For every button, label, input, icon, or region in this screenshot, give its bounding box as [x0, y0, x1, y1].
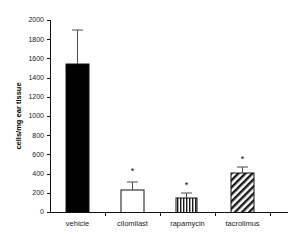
y-label-1000: 1000 [28, 112, 44, 119]
significance-star-tacrolimus: * [241, 154, 245, 164]
x-label-tacrolimus: tacrolimus [225, 219, 259, 228]
x-label-cilomilast: cilomilast [117, 219, 149, 228]
significance-star-rapamycin: * [185, 180, 189, 190]
bar-cilomilast [121, 190, 144, 213]
y-label-600: 600 [32, 151, 44, 158]
y-label-1800: 1800 [28, 36, 44, 43]
y-label-1200: 1200 [28, 93, 44, 100]
bar-vehicle [66, 64, 89, 213]
bar-tacrolimus [231, 173, 254, 213]
x-label-rapamycin: rapamycin [170, 219, 205, 228]
bar-chart: cells/mg ear tissue 0 200 400 600 800 1 [0, 0, 293, 244]
y-label-400: 400 [32, 170, 44, 177]
y-label-1600: 1600 [28, 55, 44, 62]
y-label-1400: 1400 [28, 74, 44, 81]
bar-rapamycin [176, 198, 197, 213]
y-label-800: 800 [32, 132, 44, 139]
y-label-200: 200 [32, 189, 44, 196]
y-label-0: 0 [40, 208, 44, 215]
x-label-vehicle: vehicle [66, 219, 89, 228]
significance-star-cilomilast: * [131, 166, 135, 176]
chart-canvas: cells/mg ear tissue 0 200 400 600 800 1 [0, 0, 293, 244]
y-label-2000: 2000 [28, 16, 44, 23]
y-axis-title: cells/mg ear tissue [14, 82, 23, 149]
